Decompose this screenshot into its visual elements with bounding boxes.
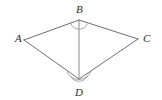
vertex-label-a: A: [14, 32, 22, 44]
edge-cd: [79, 39, 138, 79]
vertex-label-d: D: [74, 86, 83, 98]
edge-bc: [79, 20, 138, 39]
vertex-label-b: B: [76, 3, 83, 15]
geometry-figure: A B C D: [0, 0, 162, 100]
vertex-label-c: C: [143, 32, 151, 44]
geometry-canvas: A B C D: [0, 0, 162, 100]
edge-da: [24, 40, 79, 79]
